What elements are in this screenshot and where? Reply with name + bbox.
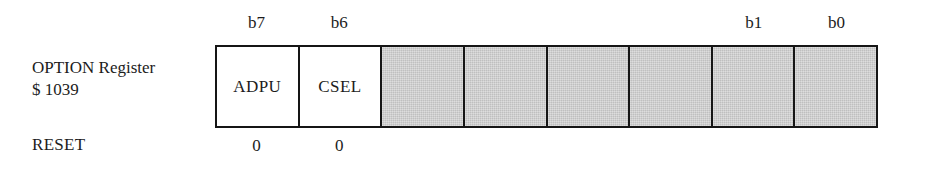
- bit-cell-b3: [548, 47, 631, 126]
- bit-cell-b7-label: ADPU: [233, 77, 281, 97]
- bit-label-b7: b7: [215, 10, 298, 36]
- bit-label-b0: b0: [795, 10, 878, 36]
- bit-cell-b6: CSEL: [300, 47, 383, 126]
- reset-value-b7: 0: [215, 133, 298, 159]
- register-name-block: OPTION Register $ 1039: [32, 57, 210, 102]
- register-address: $ 1039: [32, 79, 210, 101]
- reset-value-row: 0 0: [215, 133, 878, 163]
- register-bitfield-box: ADPU CSEL: [215, 45, 878, 128]
- bit-cell-b7: ADPU: [217, 47, 300, 126]
- bit-cell-b1: [713, 47, 796, 126]
- bit-cell-b0: [795, 47, 876, 126]
- reset-row-label: RESET: [32, 135, 85, 155]
- bit-label-b6: b6: [298, 10, 381, 36]
- bit-cell-b2: [630, 47, 713, 126]
- bit-label-row: b7 b6 b1 b0: [215, 10, 878, 40]
- bit-cell-b6-label: CSEL: [318, 77, 361, 97]
- reset-value-b6: 0: [298, 133, 381, 159]
- register-name: OPTION Register: [32, 57, 210, 79]
- bit-label-b1: b1: [712, 10, 795, 36]
- bit-cell-b5: [382, 47, 465, 126]
- bit-cell-b4: [465, 47, 548, 126]
